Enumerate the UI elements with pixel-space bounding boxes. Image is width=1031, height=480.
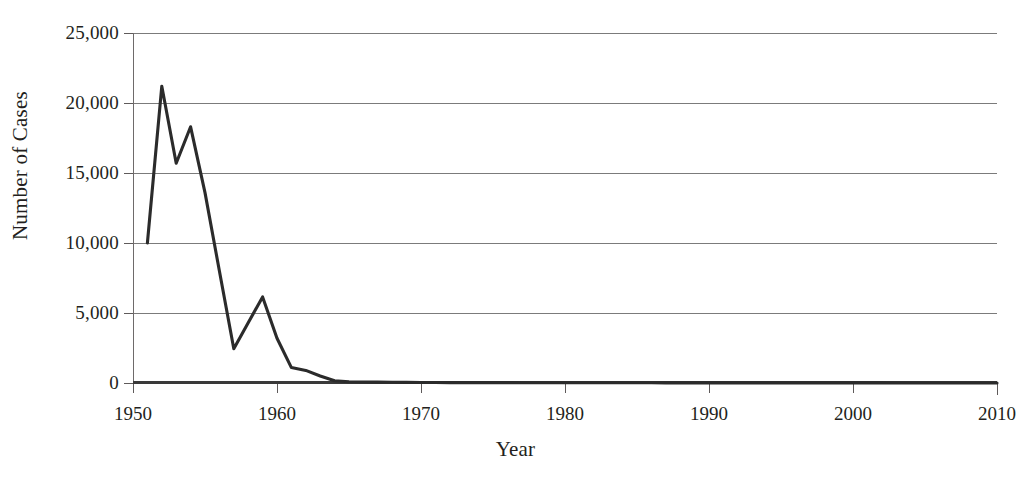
x-axis-tick xyxy=(997,384,998,395)
y-axis-tick xyxy=(124,103,133,104)
y-axis-tick-label: 0 xyxy=(109,373,119,392)
x-axis-tick-label: 1970 xyxy=(402,404,440,423)
x-axis-tick xyxy=(853,384,854,393)
y-axis-tick xyxy=(124,173,133,174)
series-path xyxy=(147,86,997,383)
chart-figure: 05,00010,00015,00020,00025,000 195019601… xyxy=(0,0,1031,480)
y-axis-tick xyxy=(124,243,133,244)
cropped-title-strip xyxy=(0,0,1031,14)
x-axis-tick xyxy=(421,384,422,393)
x-axis-tick-label: 1990 xyxy=(690,404,728,423)
x-axis-tick xyxy=(133,384,134,393)
x-axis-tick xyxy=(565,384,566,393)
x-axis-tick xyxy=(277,384,278,393)
y-axis-tick-label: 25,000 xyxy=(66,23,119,42)
y-axis-tick xyxy=(124,33,133,34)
y-axis-tick xyxy=(124,313,133,314)
y-axis-tick xyxy=(124,383,133,384)
x-axis-tick-label: 1950 xyxy=(114,404,152,423)
x-axis-tick xyxy=(709,384,710,393)
x-axis-tick-label: 2000 xyxy=(834,404,872,423)
y-axis-tick-label: 20,000 xyxy=(66,93,119,112)
x-axis-tick-label: 2010 xyxy=(978,404,1016,423)
x-axis-tick-label: 1980 xyxy=(546,404,584,423)
x-axis-title: Year xyxy=(0,437,1031,462)
x-axis-tick-label: 1960 xyxy=(258,404,296,423)
y-axis-title: Number of Cases xyxy=(8,91,33,240)
y-axis-tick-label: 15,000 xyxy=(66,163,119,182)
series-line-number-of-cases xyxy=(133,33,997,383)
y-axis-tick-label: 5,000 xyxy=(75,303,119,322)
y-axis-tick-label: 10,000 xyxy=(66,233,119,252)
